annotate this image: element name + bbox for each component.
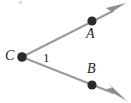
vertex-c-dot (17, 52, 27, 62)
ray-cb-line (22, 57, 113, 93)
point-a-dot (87, 16, 96, 25)
point-a-label: A (86, 27, 95, 41)
point-b-dot (87, 80, 96, 89)
angle-1-label: 1 (43, 51, 50, 64)
figure-canvas (0, 0, 131, 103)
scan-artifact-speck (19, 1, 22, 4)
geometry-figure: C A B 1 (0, 0, 131, 103)
vertex-c-label: C (5, 49, 14, 63)
point-b-label: B (87, 62, 96, 76)
ray-ca-line (22, 11, 113, 57)
